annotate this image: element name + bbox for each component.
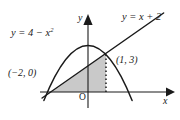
origin-label: O xyxy=(79,93,86,103)
math-figure: y = 4 − x2 y = x + 2 (1, 3) (−2, 0) O x … xyxy=(0,0,180,120)
parabola-exponent: 2 xyxy=(50,26,53,33)
point-label-1-3: (1, 3) xyxy=(116,55,138,65)
line-equation-label: y = x + 2 xyxy=(122,12,161,23)
y-axis-label: y xyxy=(78,13,82,23)
x-axis-label: x xyxy=(163,96,167,106)
point-label-minus2-0: (−2, 0) xyxy=(8,68,36,78)
y-axis-arrowhead xyxy=(83,14,92,25)
parabola-equation-label: y = 4 − x2 xyxy=(11,28,54,39)
